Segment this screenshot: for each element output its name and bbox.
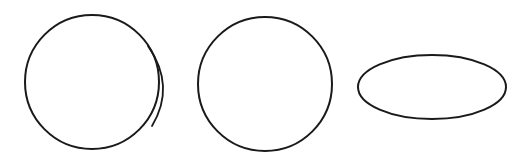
figure-canvas xyxy=(0,0,529,153)
plain-circle xyxy=(198,17,332,151)
circle-outline xyxy=(198,17,332,151)
circle-with-highlight-arc xyxy=(25,15,163,149)
shapes-figure xyxy=(0,0,529,153)
flattened-ellipse xyxy=(358,55,506,119)
circle-outline xyxy=(25,15,159,149)
ellipse-outline xyxy=(358,55,506,119)
